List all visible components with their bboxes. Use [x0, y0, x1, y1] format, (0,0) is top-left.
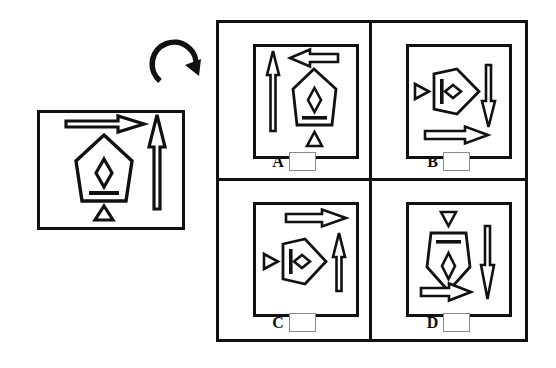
- triangle-up-icon: [95, 206, 113, 220]
- arrow-right-icon: [286, 210, 346, 227]
- pentagon-bar: [302, 116, 327, 120]
- pentagon-bar: [436, 240, 461, 244]
- option-c-footer: C: [219, 313, 369, 332]
- answer-options-grid: A: [216, 20, 528, 342]
- answer-option-b[interactable]: B: [372, 23, 525, 181]
- pentagon-icon: [283, 239, 326, 284]
- option-d-letter: D: [427, 315, 439, 331]
- arrow-up-icon: [149, 115, 165, 209]
- answer-option-c[interactable]: C: [219, 181, 372, 339]
- option-d-footer: D: [372, 313, 525, 332]
- option-d-figure: [409, 205, 509, 314]
- triangle-up-icon: [307, 132, 322, 146]
- option-a-figure: [256, 47, 356, 156]
- option-b-footer: B: [372, 152, 525, 171]
- triangle-right-icon: [264, 254, 278, 269]
- option-d-figure-box: [406, 202, 512, 317]
- stimulus-panel: [37, 110, 185, 230]
- stimulus-figure: [40, 113, 182, 227]
- option-a-figure-box: [253, 44, 359, 159]
- option-c-letter: C: [272, 315, 284, 331]
- arrow-down-icon: [481, 226, 494, 299]
- pentagon-bar: [289, 249, 293, 274]
- arrow-up-icon: [333, 233, 345, 291]
- pentagon-bar: [89, 191, 119, 195]
- option-c-figure: [256, 205, 356, 314]
- pentagon-icon: [434, 69, 479, 114]
- option-b-figure-box: [406, 44, 512, 159]
- arrow-left-icon: [290, 50, 338, 67]
- pentagon-icon: [293, 69, 336, 125]
- pentagon-bar: [440, 79, 444, 104]
- arrow-up-icon: [267, 51, 279, 131]
- option-c-figure-box: [253, 202, 359, 317]
- option-a-checkbox[interactable]: [289, 152, 316, 171]
- option-c-checkbox[interactable]: [289, 313, 316, 332]
- answer-option-a[interactable]: A: [219, 23, 372, 181]
- pentagon-icon: [76, 135, 132, 201]
- option-a-letter: A: [272, 154, 284, 170]
- answer-option-d[interactable]: D: [372, 181, 525, 339]
- option-a-footer: A: [219, 152, 369, 171]
- option-b-figure: [409, 47, 509, 156]
- clockwise-rotation-arrow-icon: [152, 34, 214, 90]
- rotation-task-page: A: [0, 0, 556, 368]
- option-d-checkbox[interactable]: [443, 313, 470, 332]
- triangle-right-icon: [415, 84, 429, 99]
- arrow-right-icon: [66, 116, 144, 132]
- option-b-checkbox[interactable]: [443, 152, 470, 171]
- triangle-down-icon: [441, 212, 456, 226]
- option-b-letter: B: [427, 154, 438, 170]
- arrow-right-icon: [425, 127, 488, 144]
- arrow-down-icon: [482, 65, 495, 127]
